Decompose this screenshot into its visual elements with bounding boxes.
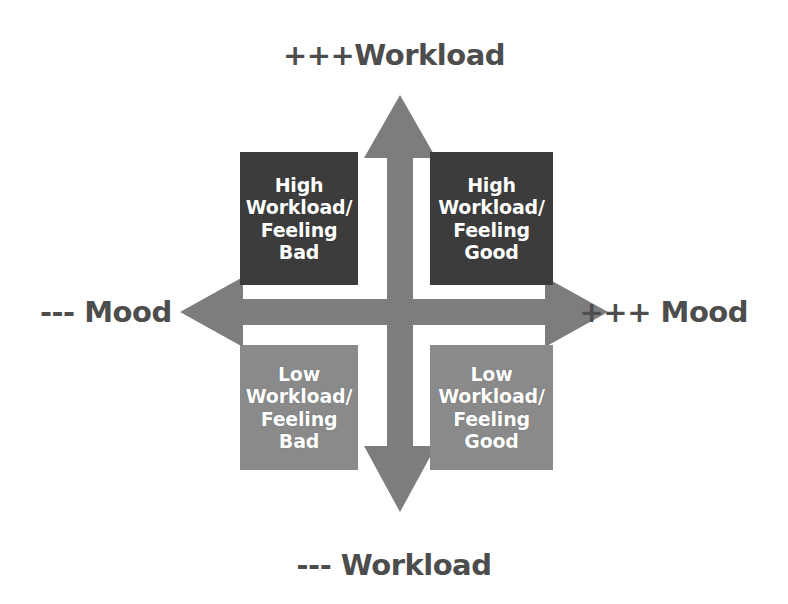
quadrant-low-good-label: LowWorkload/Feeling Good	[430, 363, 553, 453]
quadrant-high-workload-feeling-bad: HighWorkload/Feeling Bad	[240, 152, 358, 285]
quadrant-low-bad-label: LowWorkload/Feeling Bad	[240, 363, 358, 453]
axis-label-workload-negative: --- Workload	[0, 548, 788, 582]
quadrant-diagram: HighWorkload/Feeling Bad HighWorkload/Fe…	[0, 0, 788, 604]
quadrant-high-bad-label: HighWorkload/Feeling Bad	[240, 174, 358, 264]
axis-label-mood-negative: --- Mood	[40, 295, 172, 329]
quadrant-high-good-label: HighWorkload/Feeling Good	[430, 174, 553, 264]
quadrant-low-workload-feeling-good: LowWorkload/Feeling Good	[430, 345, 553, 470]
quadrant-high-workload-feeling-good: HighWorkload/Feeling Good	[430, 152, 553, 285]
quadrant-low-workload-feeling-bad: LowWorkload/Feeling Bad	[240, 345, 358, 470]
axis-label-mood-positive: +++ Mood	[580, 295, 748, 329]
axis-label-workload-positive: +++Workload	[0, 38, 788, 72]
